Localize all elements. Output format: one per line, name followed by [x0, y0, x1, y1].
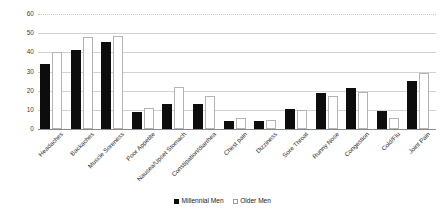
bar-older-men	[83, 37, 93, 129]
x-axis-tick-label: Cold/Flu	[380, 131, 401, 152]
bar-millennial-men	[316, 93, 326, 129]
bar-older-men	[419, 73, 429, 129]
x-axis-tick-label: Sore Throat	[282, 131, 310, 159]
bar-chart: 0102030405060 HeadachesBackachesMuscle S…	[0, 0, 445, 218]
x-axis-tick-label: Headaches	[38, 131, 65, 158]
bar-group	[375, 14, 406, 129]
bars-layer	[38, 14, 436, 129]
bar-group	[252, 14, 283, 129]
x-axis-baseline	[38, 129, 436, 130]
bar-millennial-men	[377, 111, 387, 129]
bar-millennial-men	[407, 81, 417, 129]
x-axis-tick-label: Joint Pain	[408, 131, 432, 155]
bar-older-men	[297, 110, 307, 129]
bar-older-men	[389, 118, 399, 130]
y-axis-tick-label: 30	[4, 68, 34, 74]
filled-square-icon	[174, 199, 179, 204]
bar-older-men	[266, 120, 276, 129]
bar-older-men	[113, 36, 123, 129]
bar-millennial-men	[193, 104, 203, 129]
bar-group	[160, 14, 191, 129]
bar-millennial-men	[101, 42, 111, 129]
y-axis-tick-label: 50	[4, 30, 34, 36]
bar-group	[191, 14, 222, 129]
bar-older-men	[236, 118, 246, 130]
y-axis: 0102030405060	[0, 14, 34, 129]
bar-group	[405, 14, 436, 129]
y-axis-tick-label: 40	[4, 49, 34, 55]
bar-group	[344, 14, 375, 129]
bar-group	[99, 14, 130, 129]
x-axis-tick-label: Backaches	[69, 131, 95, 157]
bar-older-men	[144, 108, 154, 129]
legend-item: Millennial Men	[174, 198, 224, 205]
x-axis-tick-label: Dizziness	[255, 131, 278, 154]
bar-older-men	[328, 96, 338, 129]
bar-group	[314, 14, 345, 129]
bar-millennial-men	[132, 112, 142, 129]
legend-label: Millennial Men	[182, 198, 224, 205]
bar-millennial-men	[346, 88, 356, 129]
bar-millennial-men	[224, 121, 234, 129]
bar-group	[222, 14, 253, 129]
y-axis-tick-label: 20	[4, 87, 34, 93]
bar-millennial-men	[162, 104, 172, 129]
chart-legend: Millennial MenOlder Men	[0, 198, 445, 205]
bar-older-men	[205, 96, 215, 129]
legend-item: Older Men	[233, 198, 271, 205]
bar-older-men	[358, 92, 368, 129]
x-axis: HeadachesBackachesMuscle SorenessPoor Ap…	[38, 131, 436, 191]
bar-group	[283, 14, 314, 129]
outlined-square-icon	[233, 199, 238, 204]
bar-millennial-men	[254, 121, 264, 129]
legend-label: Older Men	[240, 198, 271, 205]
x-axis-tick-label: Poor Appetite	[125, 131, 156, 162]
bar-group	[38, 14, 69, 129]
bar-millennial-men	[71, 50, 81, 129]
bar-older-men	[174, 87, 184, 129]
bar-group	[69, 14, 100, 129]
bar-group	[130, 14, 161, 129]
x-axis-tick-label: Congestion	[344, 131, 371, 158]
bar-millennial-men	[40, 64, 50, 129]
bar-millennial-men	[285, 109, 295, 129]
y-axis-tick-label: 10	[4, 107, 34, 113]
y-axis-tick-label: 60	[4, 11, 34, 17]
y-axis-tick-label: 0	[4, 126, 34, 132]
x-axis-tick-label: Runny Nose	[311, 131, 340, 160]
bar-older-men	[52, 52, 62, 129]
x-axis-tick-label: Chest pain	[222, 131, 248, 157]
